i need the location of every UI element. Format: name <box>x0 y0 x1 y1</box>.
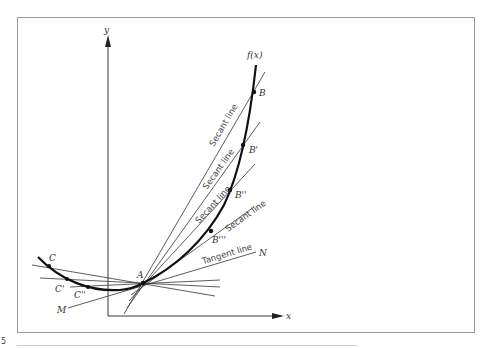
y-axis-label: y <box>103 25 110 35</box>
y-axis-arrow-icon <box>105 35 111 47</box>
bottom-rule <box>17 345 357 346</box>
label-C2: C'' <box>74 290 86 300</box>
label-B1: B' <box>248 145 258 155</box>
label-B3: B''' <box>211 235 226 245</box>
point-B-icon <box>252 90 256 94</box>
point-C1-icon <box>65 277 69 281</box>
function-label: f(x) <box>246 50 263 60</box>
label-C1: C' <box>55 284 64 294</box>
secant-line-label-2: Secant line <box>200 147 236 191</box>
figure-number: 5 <box>1 337 6 346</box>
tangent-line-label: Tangent line <box>200 242 253 267</box>
label-C: C <box>49 253 56 263</box>
secant-line-label-1: Secant line <box>207 102 239 148</box>
label-A: A <box>136 270 144 280</box>
secant-tangent-diagram: y x f(x) A B B' B'' B''' C C' C'' M N Se… <box>0 0 487 348</box>
point-C2-icon <box>86 285 90 289</box>
point-C-icon <box>47 264 51 268</box>
tangent-line-MN <box>68 252 256 308</box>
axes <box>108 44 276 316</box>
label-M: M <box>56 305 67 315</box>
label-N: N <box>258 248 268 258</box>
x-axis-arrow-icon <box>272 313 284 319</box>
point-B1-icon <box>241 143 245 147</box>
label-B2: B'' <box>234 190 247 200</box>
x-axis-label: x <box>286 311 291 321</box>
point-B3-icon <box>209 229 213 233</box>
label-B: B <box>258 88 266 98</box>
secant-line-label-4: Secant line <box>223 198 267 234</box>
point-A-icon <box>141 281 145 285</box>
secant-line-label-3: Secant line <box>193 184 232 226</box>
